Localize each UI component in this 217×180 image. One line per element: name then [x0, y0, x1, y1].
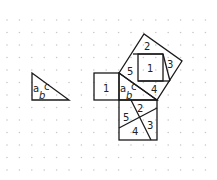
central-label-c: c: [131, 81, 137, 92]
hyp-piece-4: 4: [151, 84, 157, 95]
ref-label-c: c: [44, 81, 50, 92]
lower-piece-3: 3: [147, 120, 153, 131]
lower-piece-2: 2: [137, 103, 143, 114]
lower-piece-4: 4: [132, 126, 138, 137]
hyp-piece-3: 3: [167, 59, 173, 70]
diagram-canvas: a b c 1 a b c 1 2 3 4 5 2 3 4 5: [0, 0, 217, 180]
dot-grid: [6, 19, 206, 171]
hyp-piece-1: 1: [147, 63, 153, 74]
left-square-label: 1: [103, 83, 109, 94]
hyp-piece-2: 2: [144, 41, 150, 52]
dissection-diagram: a b c 1 a b c 1 2 3 4 5 2 3 4 5: [0, 0, 217, 180]
hyp-piece-5: 5: [127, 66, 133, 77]
lower-piece-5: 5: [123, 112, 129, 123]
